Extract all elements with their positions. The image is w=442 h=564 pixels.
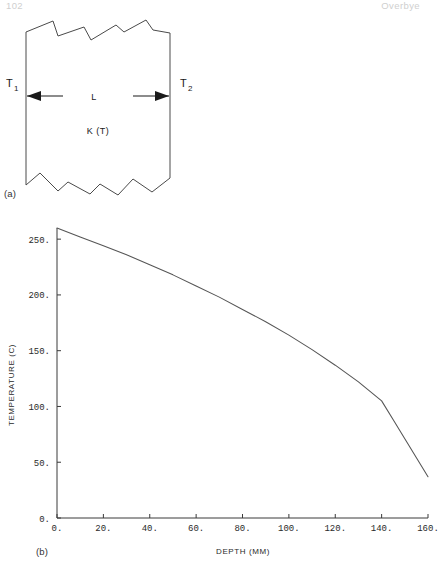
label-t1: T <box>6 77 13 89</box>
x-axis-ticks <box>57 514 428 518</box>
temperature-profile-curve <box>57 228 428 477</box>
y-tick-label: 200. <box>28 291 50 301</box>
slab-diagram-svg: T 1 T 2 L K (T) <box>0 8 240 208</box>
label-t1-subscript: 1 <box>14 84 19 93</box>
y-tick-label: 150. <box>28 347 50 357</box>
x-tick-label: 160. <box>417 524 439 534</box>
figure-a-caption: (a) <box>4 188 16 199</box>
x-tick-label: 100. <box>278 524 300 534</box>
x-axis-title: DEPTH (MM) <box>216 547 270 556</box>
arrow-head-right <box>155 91 169 101</box>
figure-b-temperature-plot: 0.20.40.60.80.100.120.140.160. 0.50.100.… <box>0 210 442 564</box>
x-tick-label: 120. <box>324 524 346 534</box>
slab-bottom-broken-edge <box>26 173 170 195</box>
x-tick-label: 20. <box>95 524 111 534</box>
y-axis-title: TEMPERATURE (C) <box>7 344 16 426</box>
label-t2-subscript: 2 <box>188 84 193 93</box>
y-axis-ticks <box>57 239 61 518</box>
x-tick-label: 0. <box>52 524 63 534</box>
y-tick-label: 50. <box>34 459 50 469</box>
temperature-depth-chart: 0.20.40.60.80.100.120.140.160. 0.50.100.… <box>0 210 442 564</box>
x-tick-label: 80. <box>234 524 250 534</box>
x-tick-label: 140. <box>371 524 393 534</box>
running-head-right: Overbye <box>381 0 420 11</box>
y-tick-label: 250. <box>28 236 50 246</box>
arrow-head-left <box>27 91 41 101</box>
x-axis-tick-labels: 0.20.40.60.80.100.120.140.160. <box>52 524 439 534</box>
label-conductivity-kt: K (T) <box>87 126 110 136</box>
label-t2: T <box>180 77 187 89</box>
x-tick-label: 60. <box>188 524 204 534</box>
slab-top-broken-edge <box>26 20 170 40</box>
y-axis-tick-labels: 0.50.100.150.200.250. <box>28 236 50 525</box>
figure-b-caption: (b) <box>36 546 48 557</box>
y-tick-label: 100. <box>28 403 50 413</box>
figure-a-slab-diagram: T 1 T 2 L K (T) <box>0 8 240 208</box>
y-tick-label: 0. <box>39 515 50 525</box>
label-thickness-l: L <box>91 92 97 102</box>
figure-page: 102 Overbye T <box>0 0 442 564</box>
x-tick-label: 40. <box>142 524 158 534</box>
